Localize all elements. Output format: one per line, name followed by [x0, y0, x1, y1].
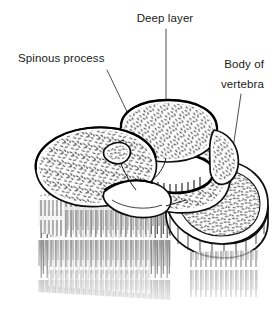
label-body-of-vertebra-line1: Body of [224, 58, 264, 70]
anatomical-figure: Deep layer Spinous process Body of verte… [0, 0, 277, 314]
illustration-canvas: Deep layer Spinous process Body of verte… [0, 0, 277, 314]
articular-process [104, 143, 131, 164]
right-pillar-fibers [190, 250, 258, 300]
label-body-of-vertebra-line2: vertebra [221, 78, 264, 90]
label-spinous-process: Spinous process [18, 52, 105, 64]
label-deep-layer: Deep layer [137, 12, 194, 24]
